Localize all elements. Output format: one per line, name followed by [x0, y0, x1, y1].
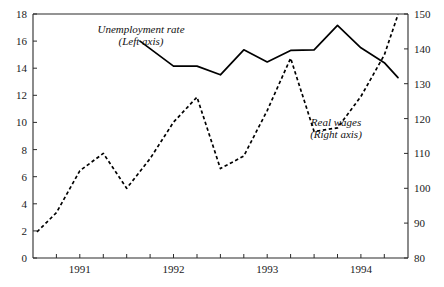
x-label-1993: 1993 — [256, 263, 279, 275]
right-tick-label-100: 100 — [414, 182, 431, 194]
left-tick-label-16: 16 — [16, 35, 28, 47]
chart-figure: 0 2 4 6 8 10 12 14 16 18 80 90 100 110 — [0, 0, 444, 287]
right-tick-label-150: 150 — [414, 8, 431, 20]
right-axis-ticks — [404, 14, 408, 258]
left-axis-tick-labels: 0 2 4 6 8 10 12 14 16 18 — [16, 8, 28, 264]
left-tick-label-10: 10 — [16, 116, 28, 128]
left-tick-label-6: 6 — [22, 171, 28, 183]
right-tick-label-120: 120 — [414, 113, 431, 125]
unemployment-annotation-line1: Unemployment rate — [97, 23, 184, 35]
left-tick-label-14: 14 — [16, 62, 28, 74]
real-wages-annotation-line1: Real wages — [310, 116, 361, 128]
x-axis-year-labels: 1991 1992 1993 1994 — [69, 263, 373, 275]
left-tick-label-8: 8 — [22, 144, 28, 156]
real-wages-annotation: Real wages (Right axis) — [310, 116, 362, 141]
left-tick-label-4: 4 — [22, 198, 28, 210]
left-tick-label-12: 12 — [16, 89, 27, 101]
right-tick-label-80: 80 — [414, 252, 426, 264]
right-tick-label-140: 140 — [414, 43, 431, 55]
right-axis-tick-labels: 80 90 100 110 120 130 140 150 — [414, 8, 431, 264]
right-tick-label-110: 110 — [414, 147, 431, 159]
real-wages-annotation-line2: (Right axis) — [310, 128, 362, 141]
chart-canvas: 0 2 4 6 8 10 12 14 16 18 80 90 100 110 — [0, 0, 444, 287]
right-tick-label-90: 90 — [414, 217, 426, 229]
x-label-1994: 1994 — [350, 263, 373, 275]
x-axis-ticks — [56, 254, 384, 258]
left-tick-label-2: 2 — [22, 225, 28, 237]
right-tick-label-130: 130 — [414, 78, 431, 90]
x-label-1991: 1991 — [69, 263, 91, 275]
left-tick-label-0: 0 — [22, 252, 28, 264]
unemployment-annotation-line2: (Left axis) — [119, 35, 164, 48]
left-tick-label-18: 18 — [16, 8, 28, 20]
x-label-1992: 1992 — [163, 263, 185, 275]
left-axis-ticks — [33, 14, 37, 258]
unemployment-annotation: Unemployment rate (Left axis) — [97, 23, 184, 48]
